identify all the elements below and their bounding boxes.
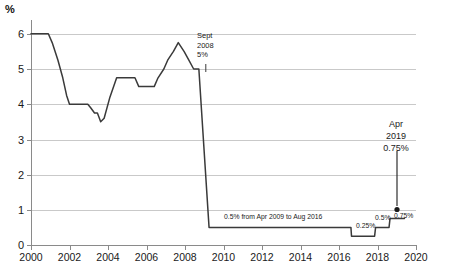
gridline-5 — [31, 69, 416, 70]
x-tick-label-2016: 2016 — [319, 252, 359, 263]
gridline-2 — [31, 175, 416, 176]
y-tick-5 — [27, 69, 31, 70]
annotation-half-percent-range: 0.5% from Apr 2009 to Aug 2016 — [224, 213, 322, 222]
x-tick-2000 — [31, 246, 32, 250]
rate-line-chart: % 6 5 4 3 2 1 0 2000 2002 2004 2006 2008… — [0, 0, 449, 275]
y-tick-label-3: 3 — [2, 135, 24, 146]
x-tick-label-2000: 2000 — [11, 252, 51, 263]
y-tick-6 — [27, 34, 31, 35]
annotation-sept-2008-line3: 5% — [197, 50, 214, 60]
x-tick-2006 — [147, 246, 148, 250]
y-tick-4 — [27, 104, 31, 105]
gridline-3 — [31, 140, 416, 141]
x-tick-2020 — [416, 246, 417, 250]
x-tick-2018 — [378, 246, 379, 250]
x-tick-label-2006: 2006 — [127, 252, 167, 263]
y-tick-1 — [27, 210, 31, 211]
x-tick-2002 — [70, 246, 71, 250]
annotation-rate-075: 0.75% — [394, 212, 413, 221]
x-tick-2014 — [301, 246, 302, 250]
x-tick-label-2002: 2002 — [50, 252, 90, 263]
annotation-apr-2019: Apr 2019 0.75% — [370, 118, 422, 154]
annotation-apr-2019-line1: Apr — [370, 118, 422, 130]
y-tick-label-5: 5 — [2, 64, 24, 75]
gridline-6 — [31, 34, 416, 35]
x-tick-label-2008: 2008 — [165, 252, 205, 263]
x-tick-2004 — [108, 246, 109, 250]
y-axis-unit-label: % — [5, 4, 15, 15]
x-tick-label-2010: 2010 — [204, 252, 244, 263]
gridline-1 — [31, 210, 416, 211]
annotation-sept-2008-line1: Sept — [197, 31, 214, 41]
annotation-apr-2019-line3: 0.75% — [370, 142, 422, 154]
y-tick-label-2: 2 — [2, 170, 24, 181]
y-tick-label-4: 4 — [2, 99, 24, 110]
annotation-sept-2008: Sept 2008 5% — [197, 31, 214, 60]
plot-area — [31, 20, 416, 245]
x-tick-label-2012: 2012 — [242, 252, 282, 263]
y-tick-label-0: 0 — [2, 240, 24, 251]
y-tick-3 — [27, 140, 31, 141]
x-tick-2012 — [262, 246, 263, 250]
annotation-apr-2019-line2: 2019 — [370, 130, 422, 142]
x-tick-label-2014: 2014 — [281, 252, 321, 263]
x-tick-label-2020: 2020 — [396, 252, 436, 263]
annotation-rate-025: 0.25% — [356, 222, 375, 231]
x-tick-2010 — [224, 246, 225, 250]
y-axis-line — [31, 20, 32, 246]
annotation-rate-05: 0.5% — [375, 214, 391, 223]
x-tick-label-2018: 2018 — [358, 252, 398, 263]
y-tick-label-1: 1 — [2, 205, 24, 216]
x-tick-2008 — [185, 246, 186, 250]
y-tick-2 — [27, 175, 31, 176]
annotation-sept-2008-line2: 2008 — [197, 41, 214, 51]
x-tick-label-2004: 2004 — [88, 252, 128, 263]
gridline-4 — [31, 104, 416, 105]
x-tick-2016 — [339, 246, 340, 250]
y-tick-label-6: 6 — [2, 29, 24, 40]
